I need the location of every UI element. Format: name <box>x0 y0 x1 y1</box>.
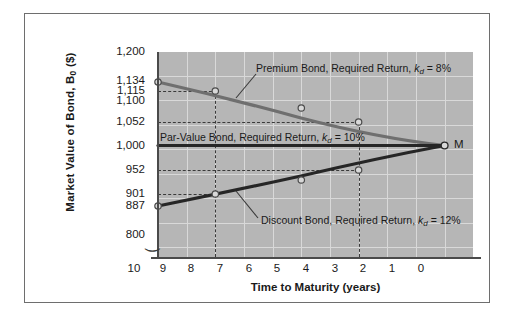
data-point-marker <box>212 191 218 197</box>
maturity-point-label: M <box>454 138 464 150</box>
y-tick-label: 1,100 <box>85 94 145 106</box>
x-tick-label: 3 <box>323 262 347 274</box>
x-axis-title: Time to Maturity (years) <box>158 281 473 293</box>
data-point-marker <box>212 88 218 94</box>
par-value-bond-annotation: Par-Value Bond, Required Return, kd = 10… <box>160 131 365 145</box>
discount-leader-line <box>236 191 258 218</box>
axis-break-symbol: ⏝ <box>145 233 160 251</box>
data-point-marker <box>355 167 361 173</box>
x-tick-label: 7 <box>208 262 232 274</box>
x-tick-label: 4 <box>294 262 318 274</box>
discount-bond-curve <box>158 146 445 207</box>
x-axis-line <box>151 257 481 259</box>
figure-frame: Market Value of Bond, B0 ($) <box>24 13 490 303</box>
x-tick-label: 6 <box>237 262 261 274</box>
y-axis-title-suffix: ($) <box>64 52 76 70</box>
plot-area: Premium Bond, Required Return, kd = 8% P… <box>158 52 473 257</box>
y-tick-label: 901 <box>85 187 145 199</box>
y-tick-label: 1,052 <box>85 115 145 127</box>
data-point-marker <box>298 105 304 111</box>
y-tick-label: 1,000 <box>85 139 145 151</box>
y-tick-label: 800 <box>85 228 145 240</box>
y-axis-title: Market Value of Bond, B0 ($) <box>64 37 84 227</box>
maturity-point-marker <box>441 142 448 149</box>
x-tick-label: 2 <box>351 262 375 274</box>
y-axis-line <box>157 52 159 257</box>
x-tick-label: 8 <box>179 262 203 274</box>
x-tick-label: 5 <box>265 262 289 274</box>
data-point-marker <box>355 119 361 125</box>
x-tick-label: 0 <box>409 262 433 274</box>
y-tick-label: 887 <box>85 199 145 211</box>
y-axis-title-subscript: 0 <box>68 70 78 75</box>
y-axis-title-prefix: Market Value of Bond, B <box>64 75 76 211</box>
discount-bond-annotation: Discount Bond, Required Return, kd = 12% <box>261 214 461 228</box>
y-tick-label: 1,200 <box>85 45 145 57</box>
x-tick-label: 1 <box>380 262 404 274</box>
premium-bond-annotation: Premium Bond, Required Return, kd = 8% <box>256 62 451 76</box>
premium-leader-line <box>236 74 256 98</box>
y-tick-label: 952 <box>85 163 145 175</box>
data-point-marker <box>298 177 304 183</box>
x-tick-label: 10 <box>122 262 146 274</box>
x-tick-label: 9 <box>151 262 175 274</box>
